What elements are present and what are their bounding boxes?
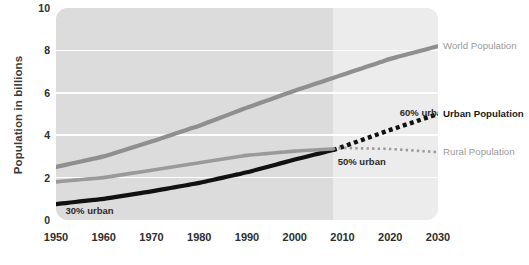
y-axis-tick-label: 10 bbox=[24, 3, 50, 14]
x-axis-tick-label: 1990 bbox=[235, 232, 259, 243]
legend-label-urban-population: Urban Population bbox=[443, 109, 524, 119]
series-lines bbox=[56, 8, 438, 220]
series-line-rural-population-historical bbox=[56, 149, 333, 182]
population-projection-chart: Population in billions 0246810 30% urban… bbox=[0, 0, 529, 265]
annotation-30-urban: 30% urban bbox=[66, 206, 114, 216]
legend-label-world-population: World Population bbox=[443, 41, 517, 51]
x-axis-tick-label: 2010 bbox=[330, 232, 354, 243]
x-axis-tick-label: 1980 bbox=[187, 232, 211, 243]
y-axis-tick-labels: 0246810 bbox=[22, 0, 50, 230]
legend: World PopulationUrban PopulationRural Po… bbox=[443, 0, 529, 265]
y-axis-tick-label: 6 bbox=[24, 88, 50, 99]
series-line-rural-population-projected bbox=[333, 148, 438, 152]
y-axis-tick-label: 8 bbox=[24, 45, 50, 56]
series-line-world-population bbox=[56, 46, 438, 167]
x-axis-tick-label: 1970 bbox=[139, 232, 163, 243]
x-axis-tick-label: 2020 bbox=[378, 232, 402, 243]
x-axis-tick-labels: 195019601970198019902000201020202030 bbox=[56, 232, 438, 254]
annotation-60-urban: 60% urban bbox=[400, 108, 438, 118]
plot-area: 30% urban50% urban60% urban bbox=[56, 8, 438, 220]
y-axis-tick-label: 4 bbox=[24, 130, 50, 141]
legend-label-rural-population: Rural Population bbox=[443, 147, 515, 157]
y-axis-tick-label: 0 bbox=[24, 215, 50, 226]
x-axis-tick-label: 2000 bbox=[283, 232, 307, 243]
series-line-urban-population-projected bbox=[333, 114, 438, 150]
x-axis-tick-label: 1960 bbox=[92, 232, 116, 243]
x-axis-tick-label: 1950 bbox=[44, 232, 68, 243]
annotation-50-urban: 50% urban bbox=[338, 157, 386, 167]
y-axis-title: Population in billions bbox=[0, 0, 20, 20]
y-axis-tick-label: 2 bbox=[24, 173, 50, 184]
